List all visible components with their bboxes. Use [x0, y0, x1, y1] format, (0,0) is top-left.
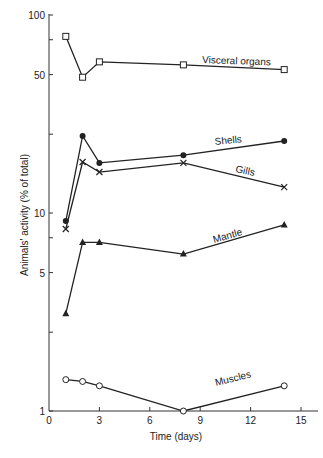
square-marker [96, 59, 102, 65]
circle-marker [281, 138, 287, 144]
y-tick-label: 1 [39, 406, 45, 417]
circle-marker [80, 133, 86, 139]
series-shells [63, 133, 287, 224]
series-label-muscles: Muscles [214, 368, 252, 388]
x-tick-label: 6 [147, 415, 153, 426]
x-tick-label: 12 [245, 415, 257, 426]
y-tick-label: 5 [39, 268, 45, 279]
y-tick-label: 50 [34, 70, 46, 81]
axes: 03691215151050100 [28, 10, 318, 426]
series-label-visceral: Visceral organs [202, 54, 271, 67]
x-tick-label: 0 [46, 415, 52, 426]
y-tick-label: 100 [28, 10, 45, 21]
series-muscles [63, 377, 287, 414]
line-chart: 03691215151050100 Visceral organs Shells… [0, 0, 323, 458]
square-marker [180, 62, 186, 68]
y-axis-title: Animals' activity (% of total) [19, 154, 30, 276]
open-circle-marker [96, 383, 102, 389]
open-circle-marker [180, 408, 186, 414]
square-marker [281, 67, 287, 73]
x-axis-title: Time (days) [150, 431, 202, 442]
series-group [62, 33, 287, 414]
series-line [66, 136, 284, 221]
x-tick-label: 9 [197, 415, 203, 426]
triangle-marker [96, 238, 103, 245]
open-circle-marker [80, 378, 86, 384]
triangle-marker [79, 238, 86, 245]
series-label-shells: Shells [214, 133, 242, 147]
triangle-marker [281, 221, 288, 228]
x-tick-label: 15 [295, 415, 307, 426]
series-line [66, 225, 284, 314]
square-marker [80, 74, 86, 80]
series-label-mantle: Mantle [212, 226, 244, 245]
x-tick-label: 3 [97, 415, 103, 426]
square-marker [63, 33, 69, 39]
circle-marker [180, 152, 186, 158]
circle-marker [96, 160, 102, 166]
open-circle-marker [281, 383, 287, 389]
open-circle-marker [63, 377, 69, 383]
y-tick-label: 10 [34, 208, 46, 219]
triangle-marker [62, 310, 69, 317]
series-mantle [62, 221, 287, 316]
